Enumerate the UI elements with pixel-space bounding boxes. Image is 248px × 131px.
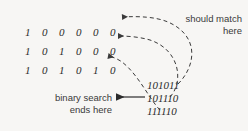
code-line: 101110: [147, 92, 178, 104]
code-line: 111110: [147, 105, 177, 117]
code-line: 101011: [147, 79, 179, 91]
bit-cell: 0: [42, 64, 59, 76]
bit-cell: 0: [76, 64, 93, 76]
bit-cell: 0: [110, 64, 127, 76]
bit-cell: 1: [59, 64, 76, 76]
should-match-label: should match here: [150, 13, 242, 36]
binary-search-ends-label: binary search ends here: [18, 92, 112, 115]
bit-row: 101010: [14, 52, 127, 88]
binary-search-match-diagram: 100000 101000 101010 101011 101110 11111…: [0, 0, 248, 131]
bit-cell: 1: [25, 64, 42, 76]
bit-cell: 1: [93, 64, 110, 76]
